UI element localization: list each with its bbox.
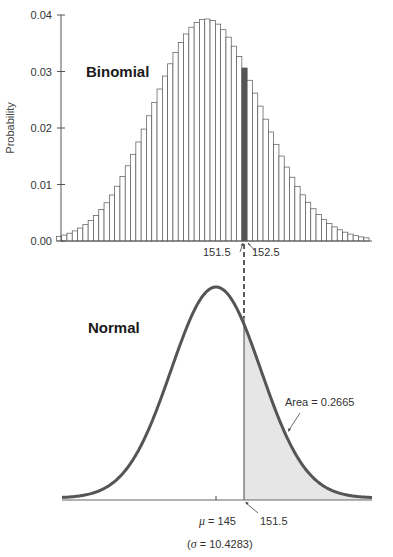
y-tick-label: 0.03 [31, 66, 52, 78]
bar [300, 195, 305, 241]
bar [131, 154, 136, 241]
cut-arrow [246, 503, 258, 513]
bar [199, 20, 204, 241]
bar [120, 177, 125, 242]
bar [311, 209, 316, 241]
bar [332, 227, 337, 241]
bar [226, 37, 231, 241]
bar [348, 234, 353, 241]
left-boundary-arrowhead [241, 243, 244, 246]
bar [321, 219, 326, 241]
binomial-panel: 0.000.010.020.030.04 Probability Binomia… [4, 9, 372, 258]
bar [189, 27, 194, 241]
bar [157, 89, 162, 241]
bar [93, 215, 98, 241]
bar [67, 233, 72, 241]
area-label: Area = 0.2665 [285, 396, 354, 408]
bar [109, 195, 114, 241]
bar [290, 177, 295, 241]
bar [115, 186, 120, 241]
bar [343, 232, 348, 241]
bar [337, 230, 342, 241]
bar [263, 119, 268, 241]
bar [221, 30, 226, 241]
highlighted-bar [242, 68, 247, 241]
binomial-title: Binomial [86, 63, 149, 80]
bar [252, 93, 257, 241]
bar [327, 223, 332, 241]
normal-title: Normal [88, 319, 140, 336]
bar [268, 132, 273, 241]
bar [194, 22, 199, 241]
y-tick-label: 0.04 [31, 9, 52, 21]
left-boundary-label: 151.5 [203, 246, 231, 258]
bar [279, 156, 284, 241]
y-tick-label: 0.00 [31, 235, 52, 247]
bar [125, 166, 130, 241]
bar [141, 129, 146, 241]
bar [72, 231, 77, 241]
area-arrow [289, 413, 300, 430]
bar [258, 106, 263, 241]
bar [99, 210, 104, 241]
y-tick-label: 0.01 [31, 179, 52, 191]
bar [178, 42, 183, 241]
y-ticks: 0.000.010.020.030.04 [31, 9, 65, 247]
bar [152, 102, 157, 241]
bar [247, 80, 252, 241]
bar [162, 76, 167, 241]
y-tick-label: 0.02 [31, 122, 52, 134]
bar [295, 186, 300, 241]
bar [88, 220, 93, 241]
bar [231, 46, 236, 241]
bar [104, 203, 109, 241]
bar [353, 236, 358, 241]
bar [284, 167, 289, 241]
normal-panel: Normal Area = 0.2665 μ = 145 151.5 (σ = … [62, 287, 372, 551]
y-axis-title: Probability [4, 102, 16, 154]
bar [184, 34, 189, 241]
cut-label: 151.5 [260, 515, 288, 527]
mean-label: μ = 145 [198, 514, 236, 528]
bar [168, 64, 173, 241]
sigma-label: (σ = 10.4283) [187, 537, 253, 551]
bar [274, 144, 279, 241]
binomial-bars [56, 19, 369, 241]
bar [136, 142, 141, 241]
bar [146, 116, 151, 241]
bar [215, 24, 220, 241]
bar [210, 21, 215, 241]
bar [173, 52, 178, 241]
bar [316, 214, 321, 241]
bar [237, 57, 242, 241]
bar [62, 235, 67, 241]
bar [78, 228, 83, 241]
figure: 0.000.010.020.030.04 Probability Binomia… [0, 0, 393, 557]
bar [205, 19, 210, 241]
bar [305, 202, 310, 241]
bar [83, 225, 88, 241]
bar [358, 237, 363, 241]
right-boundary-label: 152.5 [252, 246, 280, 258]
